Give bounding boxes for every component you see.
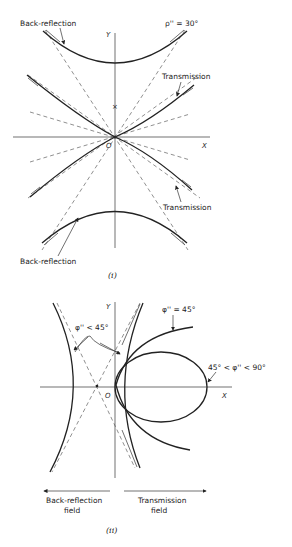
svg-text:×: × (112, 103, 118, 111)
asymptote-i (30, 112, 190, 160)
label-angle-i: ρ'' = 30° (165, 19, 198, 28)
x-axis-label-ii: X (221, 392, 227, 400)
transmission-curve-upper (27, 75, 194, 137)
origin-label-i: O (106, 142, 112, 150)
label-back-reflection-top: Back-reflection (20, 19, 77, 28)
figure-i: × Back-reflection ρ'' = 30° Transmission… (13, 19, 212, 280)
label-transmission-bottom: Transmission (162, 203, 212, 212)
y-axis-label-i: Y (106, 31, 111, 39)
label-phi-less-45: φ'' < 45° (75, 323, 109, 332)
label-transmission-top: Transmission (161, 72, 211, 81)
label-phi-eq-45: φ'' = 45° (162, 305, 196, 314)
caption-i: (i) (108, 271, 117, 280)
y-axis-label-ii: Y (106, 303, 111, 311)
label-back-reflection-bottom: Back-reflection (20, 257, 77, 266)
label-phi-range: 45° < φ'' < 90° (208, 363, 266, 372)
back-reflection-curve-ii (50, 303, 73, 472)
label-back-reflection-field-1: Back-reflection (46, 496, 103, 505)
diagram-canvas: × Back-reflection ρ'' = 30° Transmission… (0, 0, 292, 547)
figure-ii: φ'' < 45° φ'' = 45° 45° < φ'' < 90° Y X … (40, 302, 266, 535)
asymptote-i (30, 114, 190, 162)
label-transmission-field-2: field (151, 506, 167, 515)
back-reflection-curve-bottom (42, 212, 187, 244)
label-back-reflection-field-2: field (64, 506, 80, 515)
x-axis-label-i: X (201, 142, 207, 150)
label-transmission-field-1: Transmission (137, 496, 187, 505)
caption-ii: (ii) (106, 526, 117, 535)
origin-label-ii: O (105, 392, 111, 400)
parabola-phi-45 (116, 327, 193, 450)
